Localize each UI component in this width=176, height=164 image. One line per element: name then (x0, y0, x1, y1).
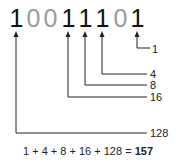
connector-bit-3 (85, 34, 147, 85)
arrow-up-icon (66, 31, 71, 37)
equation-result: 157 (135, 145, 153, 157)
equation-terms: 1 + 4 + 8 + 16 + 128 = (23, 145, 132, 157)
connector-bit-2 (102, 34, 147, 74)
place-value-8: 8 (150, 79, 156, 91)
arrowheads (14, 31, 140, 37)
place-value-128: 128 (150, 127, 168, 139)
connector-bit-4 (68, 34, 147, 97)
sum-equation: 1 + 4 + 8 + 16 + 128 = 157 (0, 145, 176, 157)
arrow-up-icon (83, 31, 88, 37)
arrow-up-icon (100, 31, 105, 37)
arrow-up-icon (135, 31, 140, 37)
connector-bit-7 (16, 34, 147, 133)
arrow-up-icon (14, 31, 19, 37)
place-value-16: 16 (150, 91, 162, 103)
place-value-1: 1 (152, 43, 158, 55)
